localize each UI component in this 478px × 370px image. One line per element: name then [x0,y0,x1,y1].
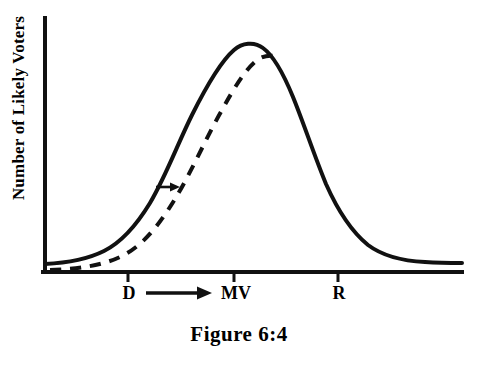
x-tick-label-d: D [112,283,146,303]
chart-plot-area [0,0,478,370]
original-distribution-curve [45,44,462,264]
x-tick-label-r: R [322,283,356,303]
figure-container: Number of Likely Voters D MV R Figure 6:… [0,0,478,370]
shifted-distribution-curve [50,56,275,270]
figure-caption: Figure 6:4 [0,322,478,347]
d-to-mv-arrow-icon [146,287,212,300]
x-tick-label-mv: MV [215,283,257,303]
y-axis-title: Number of Likely Voters [6,0,32,258]
